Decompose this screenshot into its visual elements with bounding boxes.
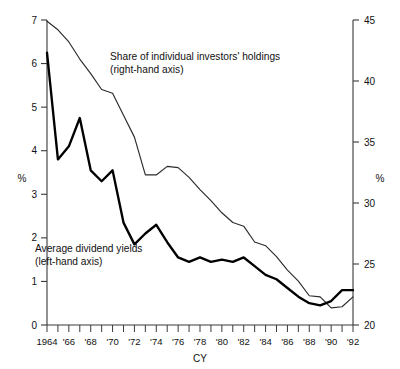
chart-canvas: 01234567 202530354045 1964'66'68'70'72'7… bbox=[0, 0, 400, 369]
left-tick-label: 7 bbox=[31, 15, 37, 26]
x-tick-label: 1964 bbox=[36, 336, 57, 347]
annotation-yields-line2: (left-hand axis) bbox=[35, 256, 102, 267]
x-axis-tick-labels: 1964'66'68'70'72'74'76'78'80'82'84'86'88… bbox=[36, 336, 359, 347]
right-tick-label: 45 bbox=[364, 15, 376, 26]
x-tick-label: '70 bbox=[106, 336, 118, 347]
left-tick-label: 4 bbox=[31, 145, 37, 156]
x-tick-label: '72 bbox=[128, 336, 140, 347]
x-tick-label: '92 bbox=[347, 336, 359, 347]
x-tick-label: '86 bbox=[281, 336, 293, 347]
left-tick-label: 5 bbox=[31, 102, 37, 113]
left-tick-label: 0 bbox=[31, 320, 37, 331]
x-tick-label: '82 bbox=[238, 336, 250, 347]
right-tick-label: 40 bbox=[364, 76, 376, 87]
left-axis-ticks: 01234567 bbox=[31, 15, 47, 331]
left-tick-label: 6 bbox=[31, 58, 37, 69]
x-axis-minor-ticks bbox=[47, 325, 353, 332]
right-tick-label: 25 bbox=[364, 259, 376, 270]
annotation-yields-line1: Average dividend yields bbox=[35, 243, 142, 254]
x-tick-label: '68 bbox=[85, 336, 97, 347]
left-tick-label: 1 bbox=[31, 276, 37, 287]
annotation-share-line1: Share of individual investors' holdings bbox=[110, 51, 280, 62]
right-axis-ticks: 202530354045 bbox=[353, 15, 376, 331]
annotation-share-line2: (right-hand axis) bbox=[110, 64, 184, 75]
right-tick-label: 20 bbox=[364, 320, 376, 331]
dividend-yield-investor-share-chart: 01234567 202530354045 1964'66'68'70'72'7… bbox=[0, 0, 400, 369]
x-tick-label: '66 bbox=[63, 336, 75, 347]
left-tick-label: 3 bbox=[31, 189, 37, 200]
x-tick-label: '76 bbox=[172, 336, 184, 347]
left-tick-label: 2 bbox=[31, 232, 37, 243]
x-tick-label: '80 bbox=[216, 336, 228, 347]
annotation-share-of-individual-investors: Share of individual investors' holdings … bbox=[110, 51, 280, 75]
x-tick-label: '88 bbox=[303, 336, 315, 347]
right-tick-label: 35 bbox=[364, 137, 376, 148]
left-axis-unit-label: % bbox=[18, 173, 27, 184]
series-line-average-dividend-yields bbox=[47, 53, 353, 306]
x-axis-title: CY bbox=[193, 353, 207, 364]
x-tick-label: '74 bbox=[150, 336, 162, 347]
annotation-average-dividend-yields: Average dividend yields (left-hand axis) bbox=[35, 243, 142, 267]
x-tick-label: '84 bbox=[259, 336, 271, 347]
x-tick-label: '78 bbox=[194, 336, 206, 347]
right-tick-label: 30 bbox=[364, 198, 376, 209]
x-tick-label: '90 bbox=[325, 336, 337, 347]
right-axis-unit-label: % bbox=[376, 173, 385, 184]
